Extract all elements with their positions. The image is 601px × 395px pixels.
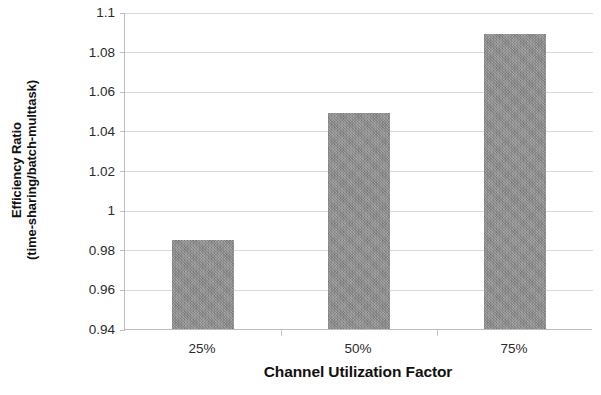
x-axis-tick-label: 50%	[298, 342, 418, 356]
y-axis-tick	[120, 211, 125, 212]
chart-figure: Efficiency Ratio (time-sharing/batch-mul…	[0, 0, 601, 395]
x-axis-tick	[281, 330, 282, 336]
y-axis-tick-label: 1.08	[63, 46, 115, 60]
y-axis-tick	[120, 171, 125, 172]
y-axis-tick-label: 1.02	[63, 165, 115, 179]
y-axis-tick	[120, 52, 125, 53]
y-axis-tick-label: 0.94	[63, 323, 115, 337]
x-axis-tick-label: 75%	[454, 342, 574, 356]
y-axis-tick	[120, 330, 125, 331]
plot-area	[124, 13, 592, 330]
y-axis-tick	[120, 13, 125, 14]
y-axis-tick	[120, 290, 125, 291]
y-axis-tick-label: 1	[63, 204, 115, 218]
x-axis-tick-label: 25%	[142, 342, 262, 356]
gridline	[125, 13, 593, 14]
y-axis-tick-label: 1.04	[63, 125, 115, 139]
y-axis-tick-label: 1.06	[63, 85, 115, 99]
x-axis-tick	[437, 330, 438, 336]
bar	[484, 34, 546, 329]
bar	[172, 240, 234, 329]
y-axis-tick-label: 0.98	[63, 244, 115, 258]
y-axis-tick	[120, 92, 125, 93]
y-axis-title-line2: (time-sharing/batch-multtask)	[24, 80, 39, 260]
bar	[328, 113, 390, 329]
y-axis-tick-label: 1.1	[63, 6, 115, 20]
x-axis-title: Channel Utilization Factor	[124, 363, 592, 381]
y-axis-title-line1: Efficiency Ratio	[9, 122, 24, 218]
y-axis-tick-label: 0.96	[63, 283, 115, 297]
y-axis-tick	[120, 131, 125, 132]
y-axis-title: Efficiency Ratio (time-sharing/batch-mul…	[2, 0, 46, 340]
y-axis-tick	[120, 250, 125, 251]
